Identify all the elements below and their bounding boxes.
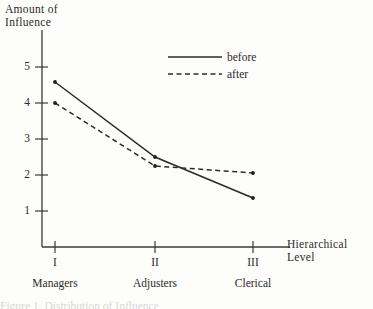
category-label-adjusters: Adjusters	[115, 277, 195, 289]
legend-label-after: after	[227, 68, 248, 80]
series-before-line	[55, 82, 253, 198]
series-before	[53, 80, 255, 200]
y-tick-label-5: 5	[16, 60, 38, 72]
y-tick-label-3: 3	[16, 132, 38, 144]
legend-label-before: before	[227, 51, 256, 63]
x-tick-label-ii: II	[144, 256, 166, 268]
series-after	[53, 101, 255, 175]
x-tick-label-i: I	[44, 256, 66, 268]
data-point	[53, 80, 57, 84]
chart-figure: Amount of Influence Hierarchical Level	[0, 0, 373, 309]
cropped-caption: Figure 1. Distribution of Influence	[0, 300, 373, 309]
data-point	[251, 196, 255, 200]
x-tick-label-iii: III	[242, 256, 264, 268]
data-point	[153, 155, 157, 159]
legend-swatches	[168, 57, 222, 74]
y-tick-label-2: 2	[16, 168, 38, 180]
y-tick-label-1: 1	[16, 204, 38, 216]
category-label-managers: Managers	[15, 277, 95, 289]
series-after-line	[55, 103, 253, 173]
category-label-clerical: Clerical	[213, 277, 293, 289]
data-point	[251, 171, 255, 175]
y-tick-label-4: 4	[16, 96, 38, 108]
data-point	[53, 101, 57, 105]
data-point	[153, 164, 157, 168]
